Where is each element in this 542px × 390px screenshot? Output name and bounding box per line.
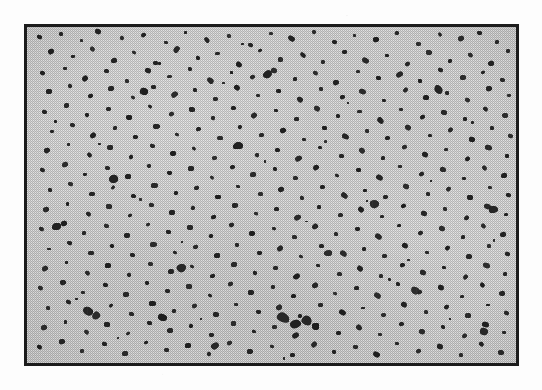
particle (236, 184, 240, 188)
particle (397, 224, 401, 227)
particle (119, 35, 125, 41)
particle (419, 269, 426, 276)
particle (212, 155, 218, 160)
particle (252, 329, 257, 333)
particle (333, 291, 338, 295)
particle (445, 91, 449, 95)
particle (430, 180, 432, 182)
particle (396, 282, 400, 286)
particle (188, 166, 195, 171)
particle (385, 54, 389, 57)
particle (272, 325, 277, 329)
particle (58, 338, 65, 344)
particle (213, 312, 219, 317)
particle (463, 117, 467, 121)
particle (277, 185, 285, 192)
particle (481, 164, 487, 170)
particle (506, 49, 510, 53)
particle (334, 232, 339, 237)
particle (196, 126, 202, 131)
particle (443, 207, 447, 211)
particle (275, 148, 280, 152)
particle (417, 230, 423, 236)
particle (375, 173, 383, 181)
particle (82, 231, 86, 235)
particle (424, 310, 428, 314)
particle (365, 129, 369, 133)
particle (144, 281, 149, 286)
particle (336, 331, 341, 335)
particle (428, 134, 432, 137)
particle (192, 303, 198, 308)
particle (333, 79, 340, 85)
particle (66, 240, 72, 246)
particle (104, 165, 110, 170)
particle (186, 284, 193, 289)
particle (255, 152, 260, 157)
particle (226, 33, 231, 38)
particle (446, 186, 452, 192)
particle (98, 143, 101, 145)
particle (270, 344, 275, 348)
particle (461, 235, 465, 239)
particle (374, 232, 382, 240)
particle (465, 254, 472, 260)
particle (257, 251, 262, 255)
particle (47, 48, 55, 55)
particle (140, 32, 146, 38)
particle (153, 124, 160, 129)
particle (194, 185, 200, 190)
particle (464, 313, 471, 319)
particle (46, 306, 50, 310)
particle (233, 141, 243, 150)
particle (256, 310, 261, 314)
particle (37, 344, 43, 350)
particle (404, 123, 412, 130)
particle (270, 285, 275, 290)
particle (107, 145, 114, 150)
particle (339, 250, 347, 258)
particle-layer (27, 27, 516, 363)
particle (448, 127, 454, 133)
particle (213, 97, 218, 101)
particle (269, 32, 273, 35)
particle (337, 272, 342, 276)
particle (187, 225, 194, 230)
particle (376, 76, 382, 81)
particle (189, 107, 196, 112)
particle (175, 262, 187, 274)
particle (442, 266, 446, 269)
particle (150, 143, 156, 148)
particle (54, 120, 57, 123)
particle (207, 293, 212, 298)
particle (480, 223, 486, 229)
particle (299, 195, 304, 200)
particle (310, 341, 318, 348)
particle (293, 214, 301, 222)
particle (149, 301, 156, 306)
particle (488, 60, 495, 67)
particle (338, 213, 343, 217)
particle (38, 285, 44, 291)
particle (111, 57, 118, 63)
particle (448, 59, 452, 63)
particle (125, 174, 131, 179)
particle (103, 69, 109, 74)
particle (399, 262, 405, 267)
particle (426, 192, 430, 196)
particle (355, 227, 360, 231)
particle (279, 127, 287, 134)
particle (166, 171, 172, 176)
particle (148, 261, 154, 266)
particle (209, 332, 215, 337)
particle (404, 61, 410, 67)
page-root (0, 0, 542, 390)
particle (419, 115, 425, 121)
particle (467, 51, 473, 57)
particle (479, 282, 485, 288)
particle (89, 131, 97, 139)
particle (445, 245, 451, 251)
particle (299, 51, 306, 58)
particle (398, 321, 404, 326)
particle (234, 302, 238, 306)
